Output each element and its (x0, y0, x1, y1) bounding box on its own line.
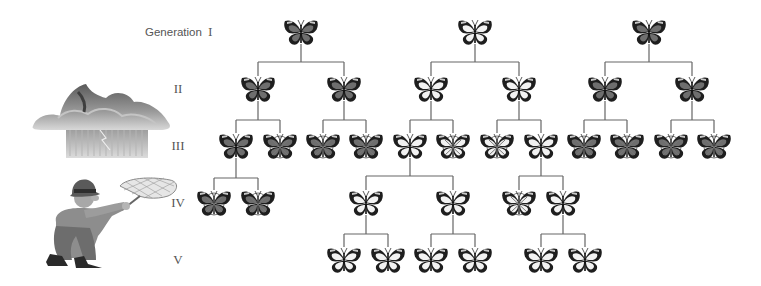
lineage-diagram: GenerationI II III IV V (0, 0, 761, 286)
light-butterfly-icon (370, 245, 406, 275)
dark-butterfly-icon (348, 131, 384, 161)
dark-butterfly-icon (196, 188, 232, 218)
light-butterfly-icon (523, 131, 559, 161)
light-butterfly-icon (435, 188, 471, 218)
dark-butterfly-icon (609, 131, 645, 161)
dark-butterfly-icon (631, 17, 667, 47)
dark-butterfly-icon (218, 131, 254, 161)
dark-butterfly-icon (240, 188, 276, 218)
dark-butterfly-icon (283, 17, 319, 47)
dark-butterfly-icon (305, 131, 341, 161)
dark-butterfly-icon (240, 74, 276, 104)
light-butterfly-icon (413, 245, 449, 275)
dark-butterfly-icon (566, 131, 602, 161)
light-butterfly-icon (545, 188, 581, 218)
light-butterfly-icon (523, 245, 559, 275)
dark-butterfly-icon (262, 131, 298, 161)
light-butterfly-icon (567, 245, 603, 275)
light-butterfly-icon (501, 74, 537, 104)
dark-butterfly-icon (696, 131, 732, 161)
light-butterfly-icon (457, 17, 493, 47)
light-butterfly-icon (392, 131, 428, 161)
dark-butterfly-icon (674, 74, 710, 104)
light-butterfly-icon (413, 74, 449, 104)
light-butterfly-icon (326, 245, 362, 275)
light-butterfly-icon (501, 188, 537, 218)
light-butterfly-icon (457, 245, 493, 275)
light-butterfly-icon (348, 188, 384, 218)
light-butterfly-icon (435, 131, 471, 161)
light-butterfly-icon (479, 131, 515, 161)
dark-butterfly-icon (326, 74, 362, 104)
dark-butterfly-icon (587, 74, 623, 104)
dark-butterfly-icon (653, 131, 689, 161)
